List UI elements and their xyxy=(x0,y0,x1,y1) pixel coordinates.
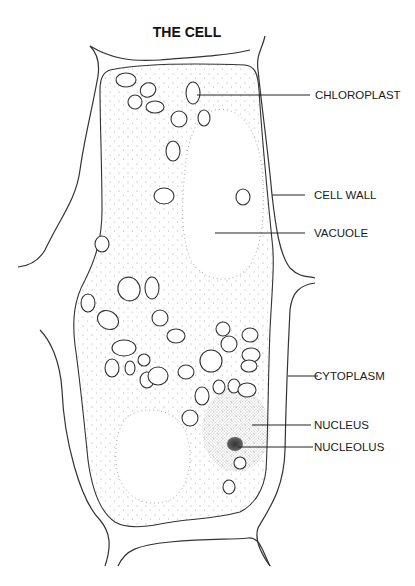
label-chloroplast: CHLOROPLAST xyxy=(315,89,401,101)
label-cell-wall: CELL WALL xyxy=(314,189,377,201)
nucleolus xyxy=(227,437,243,451)
diagram-title: THE CELL xyxy=(153,24,222,40)
label-nucleolus: NUCLEOLUS xyxy=(314,441,385,453)
cell-diagram: THE CELL xyxy=(0,0,415,586)
vacuole-upper xyxy=(183,109,264,279)
label-nucleus: NUCLEUS xyxy=(314,419,369,431)
label-vacuole: VACUOLE xyxy=(314,227,368,239)
label-cytoplasm: CYTOPLASM xyxy=(314,370,385,382)
vacuole-lower xyxy=(116,410,190,503)
